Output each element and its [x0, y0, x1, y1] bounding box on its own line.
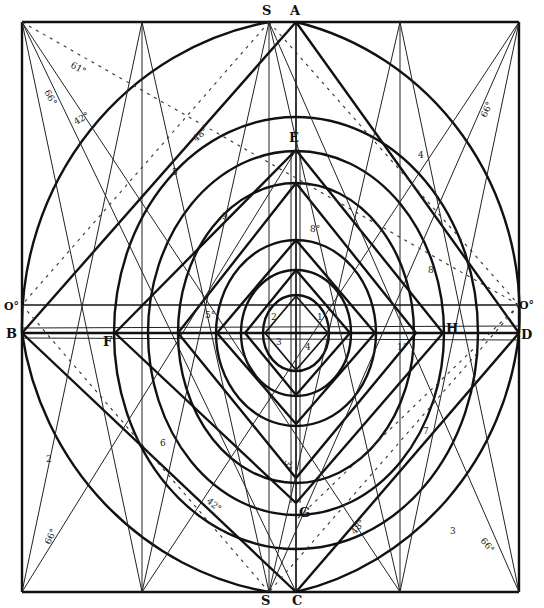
- svg-text:1°: 1°: [397, 342, 407, 352]
- svg-text:4: 4: [418, 150, 424, 160]
- svg-text:2: 2: [271, 312, 277, 322]
- svg-text:8°: 8°: [310, 224, 320, 234]
- label-O-right: O°: [519, 299, 534, 312]
- svg-text:2: 2: [46, 454, 52, 464]
- svg-text:4: 4: [305, 342, 311, 352]
- svg-text:66°: 66°: [479, 100, 495, 119]
- svg-text:9: 9: [222, 211, 228, 221]
- svg-text:42°: 42°: [72, 110, 91, 127]
- label-E: E: [289, 130, 299, 145]
- svg-text:8: 8: [428, 265, 434, 275]
- diagram-canvas: S A E B F H D G S C O° O° 61° 66° 42° 48…: [0, 0, 544, 608]
- svg-text:1: 1: [317, 312, 323, 322]
- svg-text:48°: 48°: [191, 126, 210, 144]
- svg-text:5: 5: [172, 167, 178, 177]
- label-F: F: [103, 334, 113, 349]
- label-S-top: S: [262, 3, 271, 18]
- label-O-left: O°: [4, 300, 19, 313]
- label-B: B: [6, 326, 17, 341]
- label-A: A: [289, 3, 301, 18]
- svg-text:3: 3: [276, 337, 282, 347]
- svg-text:42°: 42°: [205, 496, 224, 514]
- svg-text:3: 3: [450, 526, 456, 536]
- label-G: G: [299, 505, 310, 520]
- svg-text:66°: 66°: [42, 88, 59, 107]
- svg-text:5°: 5°: [205, 310, 215, 320]
- svg-text:66°: 66°: [478, 536, 496, 555]
- svg-text:61°: 61°: [69, 60, 88, 76]
- label-S-bottom: S: [261, 593, 270, 608]
- label-H: H: [446, 321, 458, 336]
- label-D: D: [521, 327, 532, 342]
- large-left-arc: [22, 22, 269, 592]
- svg-text:7: 7: [423, 426, 429, 436]
- label-C: C: [292, 593, 302, 608]
- svg-text:3°: 3°: [283, 460, 293, 470]
- svg-text:6: 6: [160, 438, 166, 448]
- geometric-diagram: S A E B F H D G S C O° O° 61° 66° 42° 48…: [0, 0, 544, 608]
